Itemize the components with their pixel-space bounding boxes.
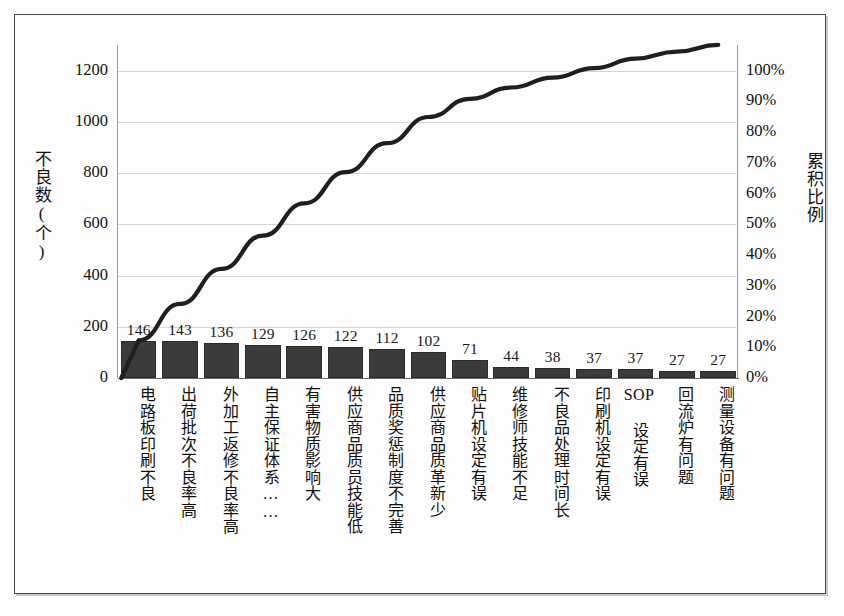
x-axis-category-label: 外加工返修不良率高 [201, 386, 241, 535]
x-axis-category-label: 供应商品质革新少 [408, 386, 448, 518]
x-axis-category-label: 电路板印刷不良 [118, 386, 158, 502]
x-axis-category-label: 维修师技能不足 [490, 386, 530, 502]
y-axis-right-tick-label: 70% [746, 152, 810, 172]
y-axis-left-tick-label: 1200 [36, 60, 108, 80]
cumulative-line-start-segment [121, 341, 138, 379]
pareto-chart-page: 不良数(个) 累积比例 020040060080010001200 0%10%2… [0, 0, 844, 616]
x-axis-category-label: 回流炉有问题 [656, 386, 696, 485]
x-axis-category-label: 不良品处理时间长 [532, 386, 572, 518]
y-axis-right-tick-label: 0% [746, 367, 810, 387]
x-axis-category-label: 自主保证体系…… [242, 386, 282, 520]
x-axis-category-label: 贴片机设定有误 [449, 386, 489, 502]
y-axis-left-tick-label: 400 [36, 265, 108, 285]
cumulative-line-series [118, 45, 739, 378]
y-axis-right-tick-label: 20% [746, 306, 810, 326]
y-axis-right-tick-label: 30% [746, 275, 810, 295]
y-axis-right-tick-label: 80% [746, 121, 810, 141]
plot-area: 14614313612912612211210271443837372727 [117, 45, 738, 378]
x-axis-category-label: 有害物质影响大 [283, 386, 323, 502]
y-axis-right-tick-label: 50% [746, 213, 810, 233]
cumulative-line-path [139, 45, 719, 341]
y-axis-left-tick-label: 600 [36, 213, 108, 233]
x-axis-category-label: SOP 设定有误 [615, 386, 655, 488]
x-axis-category-label: 品质奖惩制度不完善 [366, 386, 406, 535]
y-axis-left-tick-label: 1000 [36, 111, 108, 131]
y-axis-right-tick-label: 10% [746, 336, 810, 356]
y-axis-right-tick-label: 90% [746, 90, 810, 110]
y-axis-left-tick-label: 200 [36, 316, 108, 336]
x-axis-category-label: 测量设备有问题 [697, 386, 737, 502]
x-axis-category-label: 印刷机设定有误 [573, 386, 613, 502]
y-axis-right-tick-label: 40% [746, 244, 810, 264]
x-axis-category-label: 供应商品质员技能低 [325, 386, 365, 535]
y-axis-right-tick-label: 100% [746, 60, 810, 80]
y-axis-left-tick-label: 0 [36, 367, 108, 387]
y-axis-right-tick-label: 60% [746, 183, 810, 203]
x-axis-category-label: 出荷批次不良率高 [159, 386, 199, 518]
y-axis-left-tick-label: 800 [36, 162, 108, 182]
gridline [118, 378, 739, 379]
